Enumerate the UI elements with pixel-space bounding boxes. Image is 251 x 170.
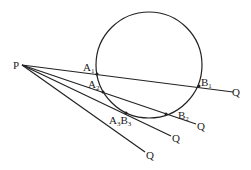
point-b2	[165, 113, 168, 116]
point-a1	[96, 73, 99, 76]
label-q3: Q	[172, 132, 180, 144]
circle	[96, 12, 202, 118]
point-a2	[102, 91, 105, 94]
label-a1: A1	[83, 61, 95, 75]
label-q1: Q	[232, 86, 240, 98]
label-b1: B1	[201, 76, 212, 90]
label-q4: Q	[146, 149, 154, 161]
label-b2: B2	[178, 109, 189, 123]
secant-tangent-diagram: P A1 B1 Q A2 B2 Q A3B3 Q Q	[0, 0, 251, 170]
label-p: P	[13, 59, 19, 71]
label-q2: Q	[197, 120, 205, 132]
